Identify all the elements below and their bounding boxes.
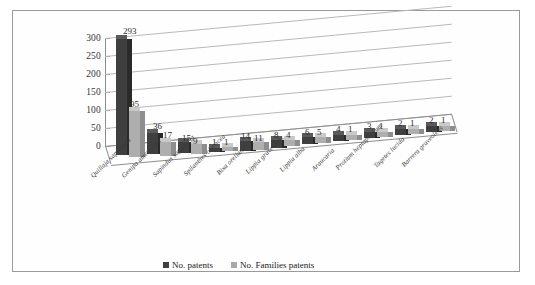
value-label-families-2: 17 (163, 130, 172, 140)
bar-dark-lippia-alba[interactable] (302, 137, 313, 144)
gridline-300 (105, 6, 452, 39)
value-label-families-1: 95 (130, 99, 139, 109)
bar-grey-tagetes-lucida[interactable] (408, 129, 419, 134)
gridline-100 (105, 78, 452, 111)
bar-grey-lippia-graveolens[interactable] (284, 140, 295, 146)
value-label-families-7: 5 (317, 127, 322, 137)
y-axis-tick-150: 150 (71, 87, 101, 97)
chart-frame: 300 250 200 150 100 50 0 (12, 10, 520, 272)
value-label-patents-7: 6 (305, 127, 310, 137)
legend-label-families-patents: No. Families patents (240, 260, 314, 270)
bar-grey-bixa-orellana[interactable] (253, 142, 264, 150)
legend-swatch-grey-icon (231, 262, 237, 268)
x-axis-label-8: Araucaria (310, 147, 335, 172)
y-axis-tick-300: 300 (71, 33, 101, 43)
legend-swatch-dark-icon (163, 262, 169, 268)
y-axis-tick-100: 100 (71, 105, 101, 115)
legend-item-families-patents[interactable]: No. Families patents (231, 260, 314, 270)
value-label-families-5: 11 (254, 133, 263, 143)
value-label-patents-8: 4 (336, 124, 341, 134)
y-axis-tick-200: 200 (71, 69, 101, 79)
bar-grey-spilanthes-oleracea[interactable] (222, 147, 233, 151)
y-axis-tick-50: 50 (71, 123, 101, 133)
bar-grey-araucaria[interactable] (346, 135, 357, 140)
gridline-250 (105, 24, 452, 57)
value-label-patents-5: 14 (241, 131, 250, 141)
bar-grey-quillaja-saponaria[interactable] (129, 111, 140, 157)
legend-item-patents[interactable]: No. patents (163, 260, 213, 270)
legend-label-patents: No. patents (172, 260, 213, 270)
gridline-200 (105, 42, 452, 75)
y-axis-tick-250: 250 (71, 51, 101, 61)
value-label-families-6: 4 (286, 130, 291, 140)
bar-chart-plot: 300 250 200 150 100 50 0 (13, 11, 535, 285)
value-label-families-11: 1 (441, 115, 446, 125)
value-label-patents-1: 293 (123, 26, 137, 36)
value-label-families-10: 1 (410, 118, 415, 128)
bar-dark-araucaria[interactable] (333, 135, 344, 141)
value-label-patents-11: 2 (429, 115, 434, 125)
y-axis-tick-0: 0 (71, 141, 101, 151)
chart-legend: No. patents No. Families patents (163, 260, 314, 270)
bar-grey-protium-heptaphyllum[interactable] (377, 132, 388, 137)
value-label-patents-2: 36 (153, 121, 162, 131)
gridline-150 (105, 60, 452, 93)
value-label-families-8: 1 (348, 124, 353, 134)
value-label-patents-10: 2 (398, 118, 403, 128)
bar-grey-lippia-alba[interactable] (315, 137, 326, 143)
